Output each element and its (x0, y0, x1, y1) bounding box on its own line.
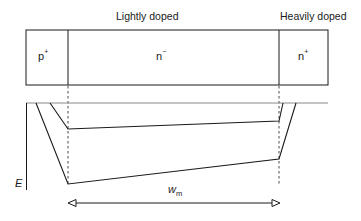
field-profile-low-bias (50, 103, 283, 129)
n-plus-region-label: n+ (298, 49, 308, 62)
p-plus-region-label: p+ (38, 49, 48, 62)
width-arrow-left-head (68, 200, 76, 207)
region-sup: + (304, 48, 308, 55)
e-axis-label: E (15, 177, 22, 189)
n-minus-region-label: n− (156, 49, 166, 62)
region-sup: − (162, 48, 166, 55)
device-outline (26, 30, 328, 85)
width-arrow-right-head (272, 200, 280, 207)
lightly-doped-label: Lightly doped (116, 10, 178, 22)
field-profile-high-bias (36, 103, 296, 184)
region-sup: + (44, 48, 48, 55)
width-sub: m (176, 189, 182, 198)
width-base: w (168, 183, 176, 195)
depletion-width-label: wm (168, 183, 182, 198)
heavily-doped-label: Heavily doped (280, 10, 347, 22)
